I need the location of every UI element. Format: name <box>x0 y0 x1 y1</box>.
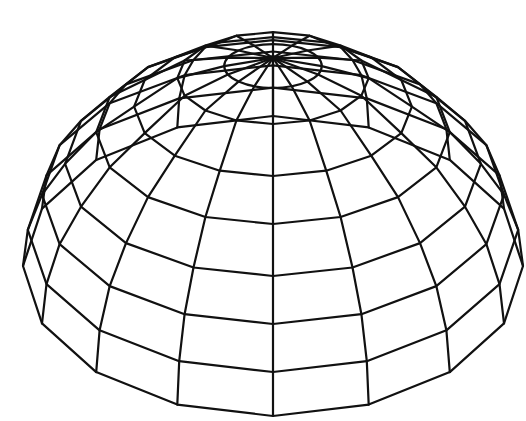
pole-vertex <box>270 55 276 61</box>
meridian-line <box>96 58 273 372</box>
meridian-line <box>273 58 504 323</box>
meridian-line <box>273 58 369 405</box>
wireframe-hemisphere <box>0 0 526 421</box>
meridian-line <box>42 58 273 323</box>
meridian-lines <box>23 32 523 416</box>
dome-figure: Wireframe hemisphere dome <box>0 0 526 421</box>
meridian-line <box>273 58 450 372</box>
meridian-line <box>177 58 273 405</box>
